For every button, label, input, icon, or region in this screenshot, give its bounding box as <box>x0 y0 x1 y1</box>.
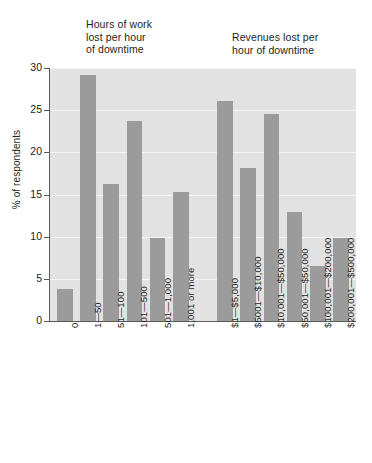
x-tick-label: 101—500 <box>138 286 149 328</box>
y-tick-label: 15 <box>2 188 42 200</box>
x-tick-label: 1,001 or more <box>185 268 196 328</box>
bar-chart-figure: Hours of work lost per hour of downtime … <box>0 0 372 463</box>
x-tick-label: 51—100 <box>115 291 126 328</box>
y-tick-mark <box>44 237 49 238</box>
x-tick-label: $50,001—$50,000 <box>299 248 310 328</box>
plot-area <box>50 68 356 321</box>
y-tick-mark <box>44 152 49 153</box>
x-tick-label: $1—$5,000 <box>229 278 240 328</box>
group-title-hours: Hours of work lost per hour of downtime <box>86 18 206 56</box>
y-tick-label: 10 <box>2 230 42 242</box>
y-tick-mark <box>44 195 49 196</box>
y-tick-mark <box>44 321 49 322</box>
y-tick-mark <box>44 279 49 280</box>
x-tick-label: 1—50 <box>92 302 103 328</box>
y-tick-label: 0 <box>2 314 42 326</box>
x-tick-label: 0 <box>69 323 80 328</box>
x-tick-label: 501—1,000 <box>162 278 173 328</box>
x-tick-label: $200,001—$500,000 <box>345 238 356 328</box>
bars-container <box>50 68 356 321</box>
group-title-revenues: Revenues lost per hour of downtime <box>232 31 372 56</box>
x-tick-label: $100,001—$200,000 <box>322 238 333 328</box>
y-axis-label: % of respondents <box>11 110 22 230</box>
y-axis-line <box>49 68 50 322</box>
y-tick-mark <box>44 110 49 111</box>
y-tick-label: 5 <box>2 272 42 284</box>
y-tick-label: 25 <box>2 103 42 115</box>
y-tick-label: 20 <box>2 145 42 157</box>
y-tick-mark <box>44 68 49 69</box>
x-tick-label: $5001—$10,000 <box>252 256 263 328</box>
x-tick-label: $10,001—$50,000 <box>275 248 286 328</box>
y-tick-label: 30 <box>2 61 42 73</box>
bar[interactable] <box>80 75 96 321</box>
bar[interactable] <box>57 289 73 321</box>
